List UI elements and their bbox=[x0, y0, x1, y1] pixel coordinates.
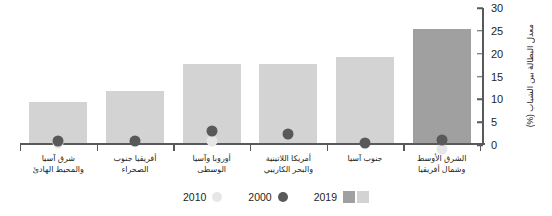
marker-2000 bbox=[130, 136, 141, 147]
legend-label: 2010 bbox=[183, 191, 206, 203]
legend-swatch bbox=[343, 191, 355, 203]
x-axis-category-label: شرق آسياوالمحيط الهادئ bbox=[20, 153, 97, 187]
x-axis-tick-group bbox=[20, 145, 485, 146]
x-axis-category-label: الشرق الأوسطوشمال أفريقيا bbox=[403, 153, 480, 187]
x-tick bbox=[250, 145, 251, 151]
bar-slot bbox=[20, 8, 97, 143]
bar-slot bbox=[173, 8, 250, 143]
x-label-line: أوروبا وآسيا bbox=[174, 153, 249, 164]
x-label-line: الشرق الأوسط bbox=[404, 153, 479, 164]
bar-series-group bbox=[20, 8, 480, 143]
x-label-line: الصحراء bbox=[98, 164, 173, 175]
x-axis-category-labels: شرق آسياوالمحيط الهادئأفريقيا جنوبالصحرا… bbox=[20, 153, 480, 187]
bar-2019 bbox=[106, 91, 164, 144]
x-axis-category-label: جنوب آسيا bbox=[327, 153, 404, 187]
y-tick bbox=[477, 76, 483, 78]
legend-swatch bbox=[357, 191, 369, 203]
legend-dot-light-icon bbox=[212, 192, 222, 202]
bar-2019 bbox=[413, 29, 471, 143]
y-tick bbox=[477, 30, 483, 32]
x-label-line: جنوب آسيا bbox=[328, 153, 403, 164]
legend-label: 2000 bbox=[248, 191, 271, 203]
y-tick-label: 30 bbox=[491, 2, 503, 14]
marker-2000 bbox=[283, 128, 294, 139]
y-axis: 051015202530 bbox=[482, 8, 484, 145]
y-axis-title-text: معدل البطالة بين الشباب (%) bbox=[525, 24, 535, 127]
marker-2000 bbox=[53, 136, 64, 147]
y-tick bbox=[477, 7, 483, 9]
y-tick-label: 25 bbox=[491, 25, 503, 37]
legend-swatch-pair bbox=[343, 191, 369, 203]
y-tick bbox=[477, 99, 483, 101]
chart-legend: 201020002019 bbox=[0, 191, 552, 203]
y-tick-label: 10 bbox=[491, 93, 503, 105]
y-tick-label: 5 bbox=[491, 116, 497, 128]
youth-unemployment-bar-chart: 051015202530 معدل البطالة بين الشباب (%)… bbox=[0, 0, 552, 216]
bar-2019 bbox=[29, 102, 87, 143]
y-tick-label: 0 bbox=[491, 139, 497, 151]
y-tick-label: 15 bbox=[491, 71, 503, 83]
legend-label: 2019 bbox=[314, 191, 337, 203]
x-label-line: الوسطى bbox=[174, 164, 249, 175]
x-axis-category-label: أمريكا اللاتينيةوالبحر الكاريبي bbox=[250, 153, 327, 187]
y-axis-title: معدل البطالة بين الشباب (%) bbox=[519, 6, 541, 146]
x-tick bbox=[403, 145, 404, 151]
x-tick bbox=[20, 145, 21, 151]
bar-slot bbox=[327, 8, 404, 143]
x-label-line: أفريقيا جنوب bbox=[98, 153, 173, 164]
bar-2019 bbox=[259, 64, 317, 144]
x-tick bbox=[480, 145, 481, 151]
marker-2000 bbox=[360, 137, 371, 148]
legend-item[interactable]: 2010 bbox=[183, 191, 222, 203]
bar-slot bbox=[403, 8, 480, 143]
x-axis-category-label: أوروبا وآسياالوسطى bbox=[173, 153, 250, 187]
marker-2000 bbox=[436, 135, 447, 146]
legend-dot-dark-icon bbox=[278, 192, 288, 202]
y-tick bbox=[477, 53, 483, 55]
marker-2010 bbox=[206, 135, 217, 146]
y-tick bbox=[477, 121, 483, 123]
x-label-line: أمريكا اللاتينية bbox=[251, 153, 326, 164]
x-tick bbox=[97, 145, 98, 151]
bar-slot bbox=[250, 8, 327, 143]
x-label-line: والبحر الكاريبي bbox=[251, 164, 326, 175]
x-axis-category-label: أفريقيا جنوبالصحراء bbox=[97, 153, 174, 187]
plot-area bbox=[20, 8, 480, 145]
y-tick-label: 20 bbox=[491, 48, 503, 60]
bar-2019 bbox=[183, 64, 241, 144]
marker-2000 bbox=[206, 126, 217, 137]
x-tick bbox=[327, 145, 328, 151]
x-label-line: والمحيط الهادئ bbox=[21, 164, 96, 175]
x-label-line: شرق آسيا bbox=[21, 153, 96, 164]
legend-item[interactable]: 2019 bbox=[314, 191, 369, 203]
x-tick bbox=[173, 145, 174, 151]
bar-2019 bbox=[336, 57, 394, 144]
bar-slot bbox=[97, 8, 174, 143]
legend-item[interactable]: 2000 bbox=[248, 191, 287, 203]
x-label-line: وشمال أفريقيا bbox=[404, 164, 479, 175]
